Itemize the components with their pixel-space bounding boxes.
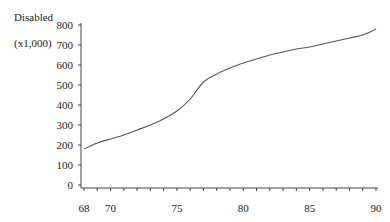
y-tick-label: 200 bbox=[57, 139, 74, 151]
x-tick-label: 80 bbox=[238, 202, 250, 214]
axes bbox=[78, 23, 378, 191]
y-tick-label: 0 bbox=[68, 179, 74, 191]
x-tick-label: 68 bbox=[79, 202, 91, 214]
y-tick-label: 800 bbox=[57, 19, 74, 31]
x-tick-labels: 687075808590 bbox=[79, 202, 383, 214]
line-chart: 0100200300400500600700800 687075808590 bbox=[0, 0, 390, 222]
y-tick-labels: 0100200300400500600700800 bbox=[57, 19, 74, 191]
x-tick-label: 70 bbox=[105, 202, 117, 214]
x-tick-label: 90 bbox=[371, 202, 383, 214]
data-line-disabled bbox=[84, 29, 376, 149]
y-tick-label: 400 bbox=[57, 99, 74, 111]
y-tick-label: 500 bbox=[57, 79, 74, 91]
y-tick-label: 600 bbox=[57, 59, 74, 71]
x-tick-label: 75 bbox=[171, 202, 183, 214]
x-tick-label: 85 bbox=[304, 202, 316, 214]
y-tick-label: 100 bbox=[57, 159, 74, 171]
y-tick-label: 700 bbox=[57, 39, 74, 51]
y-tick-label: 300 bbox=[57, 119, 74, 131]
